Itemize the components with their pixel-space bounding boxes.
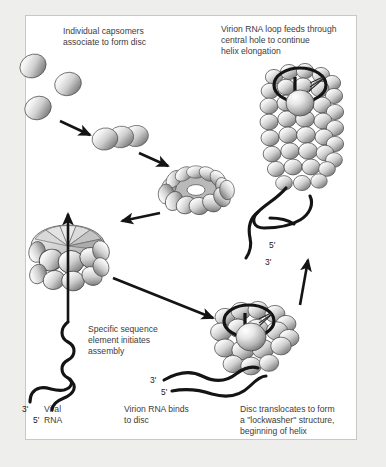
free-capsomer-3 — [21, 92, 55, 123]
caption-translocates-line1: Disc translocates to form — [240, 404, 335, 414]
caption-specific-sequence-line2: element initiates — [88, 335, 150, 345]
rna-binding-upper — [164, 367, 258, 380]
rna-loop-tail-3prime — [246, 212, 258, 258]
label-helix-three-prime: 3' — [265, 257, 272, 267]
assembled-disc — [158, 164, 235, 217]
diagram-canvas: Individual capsomers associate to form d… — [0, 0, 386, 467]
caption-viral-rna-line2: RNA — [44, 415, 62, 425]
label-mid-five-prime: 5' — [161, 387, 168, 397]
caption-virion-loop-line2: central hole to continue — [221, 35, 310, 45]
free-capsomer-1 — [16, 50, 51, 83]
caption-rna-binds: Virion RNA binds to disc — [124, 404, 189, 425]
arrow-capsomers-to-oligomer — [60, 121, 90, 135]
capsomer-trimer — [90, 124, 149, 152]
lockwasher — [211, 301, 299, 374]
free-capsomer-2 — [52, 69, 85, 99]
caption-rna-binds-line2: to disc — [124, 415, 150, 425]
caption-capsomers-line2: associate to form disc — [63, 37, 147, 47]
arrow-oligomer-to-disc — [139, 153, 168, 166]
arrow-disc-to-sideview — [122, 213, 160, 221]
caption-virion-loop-line3: helix elongation — [221, 46, 281, 56]
caption-virion-loop-line1: Virion RNA loop feeds through — [221, 24, 337, 34]
label-helix-five-prime: 5' — [269, 240, 276, 250]
arrow-lockwasher-to-helix — [300, 260, 308, 305]
caption-capsomers: Individual capsomers associate to form d… — [63, 26, 147, 47]
elongating-helix — [260, 63, 344, 190]
viral-rna-strand — [30, 322, 74, 410]
caption-rna-binds-line1: Virion RNA binds — [124, 404, 189, 414]
caption-virion-loop: Virion RNA loop feeds through central ho… — [221, 24, 337, 56]
helix-rna-loop — [246, 188, 312, 258]
rna-loop-tail-5prime — [270, 218, 294, 224]
caption-capsomers-line1: Individual capsomers — [63, 26, 144, 36]
caption-specific-sequence-line1: Specific sequence — [88, 324, 158, 334]
caption-translocates: Disc translocates to form a "lockwasher"… — [240, 404, 335, 436]
caption-translocates-line3: beginning of helix — [240, 426, 308, 436]
rna-stem-loop — [30, 322, 74, 402]
label-left-three-prime: 3' — [22, 404, 29, 414]
figure-root: Individual capsomers associate to form d… — [0, 0, 386, 467]
rna-loop-outer — [254, 188, 312, 228]
label-left-five-prime: 5' — [33, 415, 40, 425]
caption-specific-sequence-line3: assembly — [88, 346, 125, 356]
label-mid-three-prime: 3' — [150, 375, 157, 385]
caption-translocates-line2: a "lockwasher" structure, — [240, 415, 334, 425]
caption-specific-sequence: Specific sequence element initiates asse… — [88, 324, 158, 356]
arrow-disc-to-lockwasher — [113, 278, 213, 318]
